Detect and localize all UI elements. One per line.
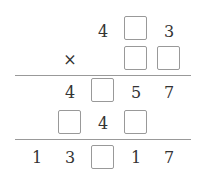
partial1-digit-3: 5 xyxy=(124,81,148,105)
partial2-blank-1[interactable] xyxy=(58,110,81,134)
divider-line-1 xyxy=(15,75,191,76)
partial1-blank-2[interactable] xyxy=(91,78,114,102)
partial2-blank-3[interactable] xyxy=(124,110,147,134)
divider-line-2 xyxy=(15,139,191,140)
multiplicand-digit-ones: 3 xyxy=(157,20,181,44)
multiplicand-digit-hundreds: 4 xyxy=(91,20,115,44)
product-digit-2: 3 xyxy=(58,146,82,170)
partial1-digit-1: 4 xyxy=(58,81,82,105)
product-blank-3[interactable] xyxy=(91,145,114,169)
product-digit-4: 1 xyxy=(124,146,148,170)
partial1-digit-4: 7 xyxy=(157,81,181,105)
product-digit-5: 7 xyxy=(157,146,181,170)
multiplicand-blank-tens[interactable] xyxy=(124,16,147,40)
multiply-sign: × xyxy=(58,48,82,72)
partial2-digit-2: 4 xyxy=(91,112,115,136)
product-digit-1: 1 xyxy=(25,146,49,170)
multiplier-blank-tens[interactable] xyxy=(124,46,147,70)
multiplier-blank-ones[interactable] xyxy=(157,46,180,70)
